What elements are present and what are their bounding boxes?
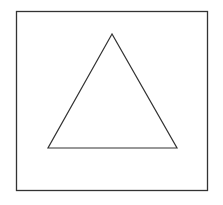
triangle-shape [48, 34, 177, 148]
diagram-canvas [0, 0, 223, 205]
frame-rectangle [17, 12, 208, 191]
